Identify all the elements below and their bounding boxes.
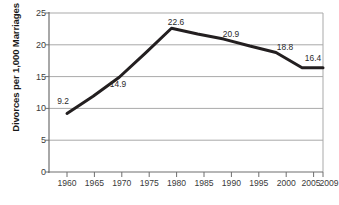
data-label-14-9: 14.9 — [110, 79, 126, 89]
x-tick-label-1960: 1960 — [57, 178, 76, 188]
data-label-18-8: 18.8 — [277, 42, 293, 52]
data-label-9-2: 9.2 — [57, 96, 69, 106]
x-tick-label-2005: 2005 — [301, 178, 320, 188]
x-tick-label-2009: 2009 — [319, 178, 338, 188]
x-tick-label-1970: 1970 — [112, 178, 131, 188]
data-label-22-6: 22.6 — [168, 17, 184, 27]
x-tick-label-2000: 2000 — [277, 178, 296, 188]
x-tick-label-1990: 1990 — [222, 178, 241, 188]
data-label-16-4: 16.4 — [305, 53, 321, 63]
x-tick-label-1965: 1965 — [85, 178, 104, 188]
x-tick-label-1975: 1975 — [140, 178, 159, 188]
x-tick-label-1995: 1995 — [249, 178, 268, 188]
data-label-20-9: 20.9 — [223, 29, 239, 39]
x-tick-label-1985: 1985 — [194, 178, 213, 188]
x-tick-label-1980: 1980 — [167, 178, 186, 188]
x-axis-ticks — [67, 172, 323, 177]
